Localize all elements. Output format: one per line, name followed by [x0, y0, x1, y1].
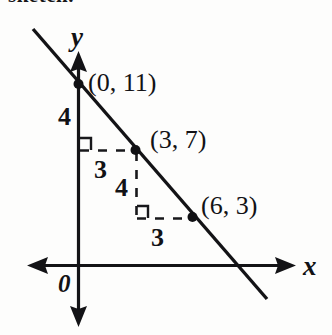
- x-axis-left-arrow-icon: [27, 257, 48, 274]
- figure-root: sketch. y: [0, 0, 332, 335]
- data-point-dot-6-3: [188, 212, 198, 222]
- point-label-3-7: (3, 7): [150, 125, 206, 154]
- point-label-0-11: (0, 11): [88, 68, 156, 97]
- run-label-upper: 3: [94, 155, 107, 184]
- x-axis-right-arrow-icon: [275, 257, 296, 274]
- data-point-dot-3-7: [131, 145, 141, 155]
- origin-label: 0: [58, 270, 71, 297]
- y-axis-up-arrow-icon: [70, 51, 87, 72]
- y-axis-down-arrow-icon: [70, 306, 87, 327]
- data-point-dot-0-11: [74, 79, 84, 89]
- slope-triangle-lower: [137, 152, 195, 219]
- coordinate-graph: y x 0 (0, 11) (3, 7) (6, 3) 4 3 4 3: [0, 0, 332, 335]
- x-axis-label: x: [302, 251, 317, 281]
- rise-label-upper: 4: [58, 102, 71, 131]
- y-axis-label: y: [68, 22, 84, 52]
- right-angle-mark-lower: [137, 206, 148, 218]
- point-label-6-3: (6, 3): [201, 191, 257, 220]
- run-label-lower: 3: [151, 223, 164, 252]
- y-axis-group: [70, 51, 87, 327]
- right-angle-mark-upper: [80, 138, 91, 150]
- rise-label-lower: 4: [115, 173, 128, 202]
